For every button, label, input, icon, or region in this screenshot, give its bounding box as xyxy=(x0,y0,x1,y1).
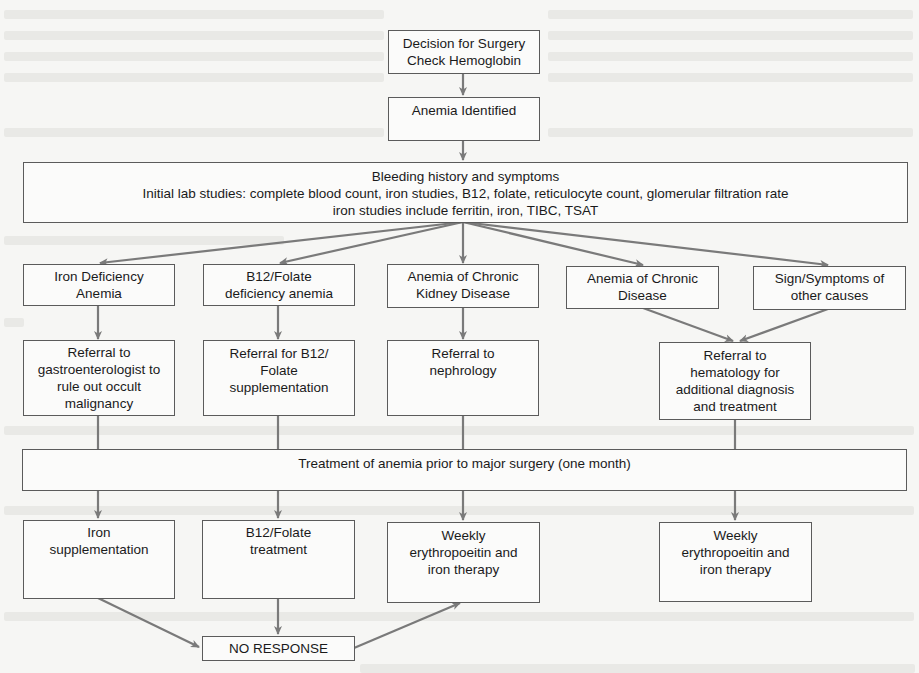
node-text: Folate xyxy=(260,362,298,379)
node-text: rule out occult xyxy=(57,378,141,395)
node-no-response: NO RESPONSE xyxy=(202,636,355,661)
node-anemia-identified: Anemia Identified xyxy=(388,97,540,141)
node-text: B12/Folate xyxy=(246,268,311,285)
node-text: Weekly xyxy=(441,527,485,544)
node-workup: Bleeding history and symptoms Initial la… xyxy=(23,162,908,223)
node-text: Anemia Identified xyxy=(412,102,516,119)
node-text: Iron Deficiency xyxy=(54,268,143,285)
arrow-iron-to-no-response xyxy=(98,598,199,647)
node-other-causes: Sign/Symptoms of other causes xyxy=(753,266,906,310)
node-text: additional diagnosis xyxy=(676,381,795,398)
node-text: Kidney Disease xyxy=(416,285,510,302)
arrow-workup-to-chronic-disease xyxy=(463,222,643,265)
node-text: Iron xyxy=(87,524,110,541)
node-text: Anemia of Chronic xyxy=(587,270,698,287)
node-text: iron studies include ferritin, iron, TIB… xyxy=(333,202,599,219)
node-text: treatment xyxy=(250,541,307,558)
arrow-workup-to-b12 xyxy=(280,222,463,263)
arrow-workup-to-other-causes xyxy=(463,222,828,265)
node-text: supplementation xyxy=(49,541,148,558)
node-ckd-anemia: Anemia of Chronic Kidney Disease xyxy=(387,264,539,308)
arrow-workup-to-iron-deficiency xyxy=(100,222,463,263)
node-text: Disease xyxy=(618,287,667,304)
node-b12-folate-deficiency: B12/Folate deficiency anemia xyxy=(203,264,355,306)
node-text: Referral to xyxy=(431,345,494,362)
node-text: Anemia of Chronic xyxy=(407,268,518,285)
node-text: Referral to xyxy=(703,347,766,364)
node-b12-folate-treatment: B12/Folate treatment xyxy=(202,520,355,599)
node-iron-deficiency-anemia: Iron Deficiency Anemia xyxy=(23,264,175,306)
node-text: B12/Folate xyxy=(246,524,311,541)
node-text: malignancy xyxy=(65,395,133,412)
node-text: erythropoeitin and xyxy=(681,544,789,561)
node-referral-b12-folate: Referral for B12/ Folate supplementation xyxy=(203,340,355,416)
node-text: Sign/Symptoms of xyxy=(775,270,885,287)
node-text: Referral to xyxy=(67,344,130,361)
node-epo-iron-therapy-right: Weekly erythropoeitin and iron therapy xyxy=(659,522,812,602)
node-text: Bleeding history and symptoms xyxy=(372,168,560,185)
arrow-other-to-hematology xyxy=(740,309,828,341)
node-text: Weekly xyxy=(713,527,757,544)
node-text: hematology for xyxy=(690,364,779,381)
node-text: iron therapy xyxy=(428,561,499,578)
node-iron-supplementation: Iron supplementation xyxy=(23,520,175,599)
node-referral-nephrology: Referral to nephrology xyxy=(387,340,539,416)
node-referral-gastroenterologist: Referral to gastroenterologist to rule o… xyxy=(23,340,175,416)
arrow-no-response-to-epo xyxy=(354,603,460,648)
node-decision-for-surgery: Decision for Surgery Check Hemoglobin xyxy=(388,30,540,74)
node-text: other causes xyxy=(791,287,868,304)
node-text: supplementation xyxy=(229,379,328,396)
node-text: erythropoeitin and xyxy=(409,544,517,561)
node-text: deficiency anemia xyxy=(225,285,333,302)
node-epo-iron-therapy-left: Weekly erythropoeitin and iron therapy xyxy=(387,522,540,603)
node-text: Check Hemoglobin xyxy=(407,52,521,69)
node-treatment-prior-to-surgery: Treatment of anemia prior to major surge… xyxy=(22,449,907,491)
arrow-chronic-to-hematology xyxy=(643,308,733,341)
node-text: nephrology xyxy=(430,362,497,379)
node-text: Treatment of anemia prior to major surge… xyxy=(298,455,631,472)
node-chronic-disease-anemia: Anemia of Chronic Disease xyxy=(566,266,719,309)
node-text: Decision for Surgery xyxy=(403,35,525,52)
node-text: and treatment xyxy=(693,398,776,415)
node-text: Referral for B12/ xyxy=(229,345,328,362)
node-text: NO RESPONSE xyxy=(229,640,328,657)
node-text: Initial lab studies: complete blood coun… xyxy=(142,185,788,202)
node-referral-hematology: Referral to hematology for additional di… xyxy=(659,342,811,420)
node-text: Anemia xyxy=(76,285,122,302)
node-text: gastroenterologist to xyxy=(38,361,160,378)
node-text: iron therapy xyxy=(700,561,771,578)
